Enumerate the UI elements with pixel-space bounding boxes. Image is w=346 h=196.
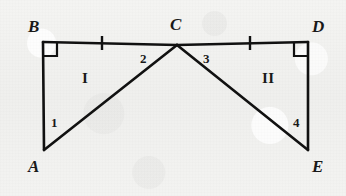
vertex-label-d: D — [312, 18, 324, 35]
angle-1: 1 — [51, 116, 58, 129]
segment-ce — [177, 45, 308, 150]
segments-group — [43, 42, 308, 150]
angle-3: 3 — [203, 52, 210, 65]
vertex-label-c: C — [170, 16, 181, 33]
right-angle-d — [294, 42, 308, 56]
vertex-label-a: A — [28, 158, 39, 175]
segment-ba — [43, 42, 44, 150]
region-2: II — [262, 71, 275, 86]
segment-bc — [43, 42, 177, 45]
right-angle-b — [43, 42, 57, 56]
geometry-figure: BCDAE 1234 III — [0, 0, 346, 196]
angle-4: 4 — [293, 116, 300, 129]
segment-ac — [44, 45, 177, 150]
segment-cd — [177, 42, 308, 45]
region-1: I — [82, 71, 88, 86]
vertex-label-b: B — [28, 18, 39, 35]
angle-2: 2 — [140, 52, 147, 65]
vertex-label-e: E — [312, 158, 323, 175]
